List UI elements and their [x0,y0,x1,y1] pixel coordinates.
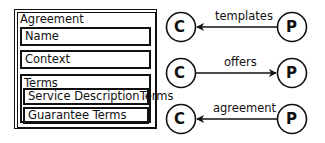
provider-label: P [286,111,297,128]
provider-label: P [286,19,297,36]
edge-label-agreement: agreement [213,102,276,115]
relations-diagram [0,0,325,143]
consumer-label: C [174,65,185,82]
consumer-label: C [174,19,185,36]
edge-label-offers: offers [224,56,257,69]
provider-label: P [286,65,297,82]
edge-label-templates: templates [215,10,273,23]
consumer-label: C [174,111,185,128]
